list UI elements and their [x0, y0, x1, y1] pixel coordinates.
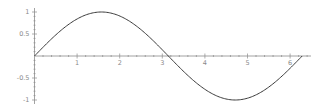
x-tick-label: 1 [75, 59, 79, 67]
x-tick-label: 2 [118, 59, 122, 67]
sine-plot: 123456 10.5-0.5-1 [0, 0, 325, 110]
y-tick-label: 0.5 [19, 30, 29, 38]
y-tick-label: -1 [23, 96, 29, 104]
axes [34, 8, 312, 104]
x-tick-label: 3 [160, 59, 164, 67]
x-axis-ticks: 123456 [75, 54, 292, 68]
y-tick-label: 1 [25, 8, 29, 16]
x-tick-label: 5 [245, 59, 249, 67]
y-tick-label: -0.5 [17, 74, 30, 82]
y-axis-ticks: 10.5-0.5-1 [17, 8, 37, 104]
x-tick-label: 4 [203, 59, 207, 67]
x-tick-label: 6 [288, 59, 292, 67]
